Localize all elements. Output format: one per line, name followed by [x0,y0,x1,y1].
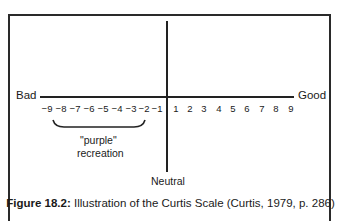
good-label: Good [298,89,326,101]
tick-neg-8: −8 [56,103,67,114]
tick-pos-1: 1 [173,103,178,114]
scale-axis-line [40,96,294,98]
tick-pos-3: 3 [201,103,206,114]
tick-pos-4: 4 [216,103,221,114]
tick-neg-5: −5 [98,103,109,114]
figure-caption: Figure 18.2: Illustration of the Curtis … [0,197,341,209]
bad-label: Bad [16,89,36,101]
tick-neg-9: −9 [42,103,53,114]
tick-neg-3: −3 [126,103,137,114]
figure-frame [8,14,331,221]
tick-pos-5: 5 [230,103,235,114]
tick-pos-2: 2 [187,103,192,114]
tick-pos-7: 7 [259,103,264,114]
tick-neg-6: −6 [84,103,95,114]
caption-text: Illustration of the Curtis Scale (Curtis… [71,197,335,209]
tick-pos-8: 8 [273,103,278,114]
purple-label: "purple" [80,134,117,146]
figure-number: Figure 18.2: [6,197,71,209]
recreation-label: recreation [77,147,124,159]
tick-neg-1: −1 [152,103,163,114]
tick-pos-6: 6 [244,103,249,114]
neutral-label: Neutral [151,175,185,187]
brace-icon [52,119,146,129]
tick-neg-2: −2 [139,103,150,114]
tick-neg-7: −7 [70,103,81,114]
tick-neg-4: −4 [112,103,123,114]
tick-pos-9: 9 [288,103,293,114]
